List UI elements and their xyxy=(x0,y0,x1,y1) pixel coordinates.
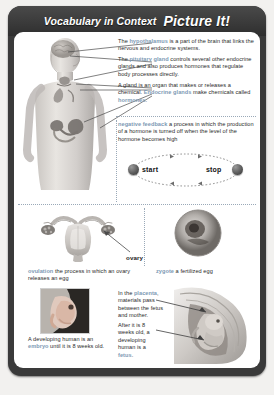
poster-frame: Vocabulary in Context Picture It! xyxy=(8,6,266,376)
divider-negative-feedback xyxy=(116,116,256,117)
entry-ovulation: ovulation the process in which an ovary … xyxy=(28,268,138,283)
entry-embryo-lead: A developing human is an xyxy=(28,336,93,342)
header-vocabulary-title: Vocabulary in Context xyxy=(44,15,157,27)
embryo-photo xyxy=(40,288,90,334)
entry-zygote-definition: a fertilized egg xyxy=(174,268,213,274)
entry-pituitary-term: pituitary gland xyxy=(129,56,168,62)
entry-fetus-term: fetus xyxy=(118,352,132,358)
entry-gland: A gland is an organ that makes or releas… xyxy=(118,82,254,104)
negative-feedback-loop-diagram: start stop xyxy=(122,150,250,190)
entry-hypothalamus-lead: The xyxy=(118,38,129,44)
loop-stop-label: stop xyxy=(206,166,222,173)
entry-gland-body: make chemicals called xyxy=(191,89,250,95)
loop-start-label: start xyxy=(142,166,158,173)
divider-vertical-lower xyxy=(144,208,145,266)
header-picture-it-title: Picture It! xyxy=(163,13,230,29)
entry-negative-feedback-term: negative feedback xyxy=(118,121,167,127)
poster-page: The hypothalamus is a part of the brain … xyxy=(14,32,260,368)
entry-placenta: In the placenta, materials pass between … xyxy=(118,290,164,320)
entry-pituitary-gland: The pituitary gland controls several oth… xyxy=(118,56,254,78)
entry-gland-body2: . xyxy=(145,97,147,103)
entry-embryo-term: embryo xyxy=(28,343,49,349)
ovary-leader-line xyxy=(100,228,134,256)
divider-vertical-upper xyxy=(116,120,117,202)
entry-zygote-term: zygote xyxy=(156,268,174,274)
ovary-label: ovary xyxy=(126,254,143,261)
loop-start-node xyxy=(128,164,139,175)
entry-placenta-lead: In the xyxy=(118,290,134,296)
entry-pituitary-lead: The xyxy=(118,56,129,62)
entry-embryo: A developing human is an embryo until it… xyxy=(28,336,110,351)
entry-hypothalamus: The hypothalamus is a part of the brain … xyxy=(118,38,254,53)
entry-zygote: zygote a fertilized egg xyxy=(156,268,256,275)
divider-mid-section xyxy=(18,204,256,205)
entry-placenta-term: placenta xyxy=(134,290,157,296)
entry-fetus-body: . xyxy=(132,352,134,358)
entry-negative-feedback: negative feedback a process in which the… xyxy=(118,121,254,143)
entry-gland-term-hormones: hormones xyxy=(118,97,145,103)
entry-gland-term-endocrine: Endocrine glands xyxy=(144,89,192,95)
entry-hypothalamus-term: hypothalamus xyxy=(129,38,168,44)
entry-embryo-body: until it is 8 weeks old. xyxy=(49,343,105,349)
poster-header: Vocabulary in Context Picture It! xyxy=(8,10,266,32)
entry-fetus: After it is 8 weeks old, a developing hu… xyxy=(118,322,160,359)
loop-stop-node xyxy=(232,164,243,175)
entry-fetus-lead: After it is 8 weeks old, a developing hu… xyxy=(118,322,150,350)
zygote-photo xyxy=(172,208,224,258)
entry-ovulation-term: ovulation xyxy=(28,268,53,274)
